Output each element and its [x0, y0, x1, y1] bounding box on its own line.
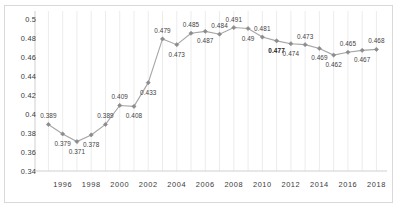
data-label: 0.474 [283, 49, 300, 56]
data-label: 0.433 [140, 88, 157, 95]
data-label: 0.473 [169, 50, 186, 57]
data-label: 0.468 [368, 37, 385, 44]
data-label: 0.465 [340, 40, 357, 47]
data-label: 0.467 [354, 56, 371, 63]
data-label: 0.408 [126, 112, 143, 119]
data-label: 0.371 [69, 147, 86, 154]
data-label: 0.462 [325, 61, 342, 68]
data-label: 0.473 [297, 32, 314, 39]
data-label: 0.378 [83, 140, 100, 147]
data-label: 0.409 [111, 93, 128, 100]
data-label: 0.479 [154, 26, 171, 33]
data-label: 0.379 [54, 139, 71, 146]
data-label: 0.481 [254, 25, 271, 32]
data-label: 0.487 [197, 37, 214, 44]
data-label: 0.389 [40, 112, 57, 119]
data-label: 0.389 [97, 112, 114, 119]
data-label: 0.485 [183, 21, 200, 28]
data-label: 0.49 [242, 34, 255, 41]
line-chart: 0.50.480.460.440.420.40.380.360.34 19961… [0, 0, 398, 213]
data-label: 0.491 [226, 15, 243, 22]
data-labels: 0.3890.3790.3710.3780.3890.4090.4080.433… [0, 0, 398, 213]
data-label: 0.484 [211, 22, 228, 29]
